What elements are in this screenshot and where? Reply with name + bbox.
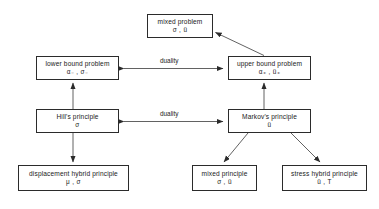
node-symbols: σ: [75, 121, 79, 129]
node-stress-hybrid-principle[interactable]: stress hybrid principle ü , T: [282, 165, 367, 191]
node-title: displacement hybrid principle: [29, 170, 118, 178]
edge-label-duality-top: duality: [158, 57, 180, 65]
node-upper-bound-problem[interactable]: upper bound problem α₊ , ü₊: [228, 56, 311, 80]
node-title: mixed problem: [158, 18, 203, 26]
node-symbols: σ , ü: [173, 26, 188, 34]
node-title: upper bound problem: [237, 60, 302, 68]
edge-upper-to-mixed: [216, 33, 265, 56]
node-hills-principle[interactable]: Hill's principle σ: [36, 109, 119, 133]
node-symbols: ü: [268, 121, 272, 129]
node-title: Markov's principle: [242, 113, 297, 121]
node-symbols: ü , T: [317, 178, 332, 186]
node-mixed-problem[interactable]: mixed problem σ , ü: [147, 14, 213, 38]
node-symbols: α₊ , ü₊: [259, 68, 280, 76]
node-title: lower bound problem: [45, 60, 109, 68]
node-displacement-hybrid-principle[interactable]: displacement hybrid principle μ , σ: [18, 165, 129, 191]
node-lower-bound-problem[interactable]: lower bound problem α₋ , σ₋: [36, 56, 119, 80]
node-symbols: σ , ü: [217, 178, 232, 186]
node-title: stress hybrid principle: [291, 170, 358, 178]
edge-markov-to-stress-hybrid: [291, 133, 320, 162]
node-markovs-principle[interactable]: Markov's principle ü: [228, 109, 311, 133]
node-title: mixed principle: [202, 170, 248, 178]
diagram-canvas: mixed problem σ , ü lower bound problem …: [0, 0, 379, 209]
node-symbols: α₋ , σ₋: [67, 68, 89, 76]
node-symbols: μ , σ: [66, 178, 81, 186]
node-title: Hill's principle: [56, 113, 98, 121]
node-mixed-principle[interactable]: mixed principle σ , ü: [192, 165, 257, 191]
edge-markov-to-mixed-principle: [224, 133, 248, 162]
edge-label-duality-bottom: duality: [158, 110, 180, 118]
